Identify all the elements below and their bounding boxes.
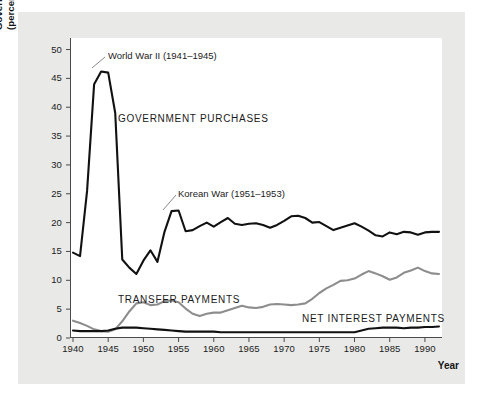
annotation-government-purchases: GOVERNMENT PURCHASES: [118, 113, 269, 124]
x-tick-label: 1965: [229, 343, 269, 354]
y-tick-label: 25: [40, 188, 62, 199]
x-tick-label: 1955: [159, 343, 199, 354]
y-tick-label: 15: [40, 245, 62, 256]
x-axis-title: Year: [438, 360, 459, 371]
annotation-net-interest-payments: NET INTEREST PAYMENTS: [302, 313, 445, 324]
y-tick-label: 20: [40, 217, 62, 228]
y-tick-label: 35: [40, 130, 62, 141]
y-tick-label: 40: [40, 101, 62, 112]
annotation-world-war-2: World War II (1941–1945): [108, 50, 217, 61]
y-tick-label: 30: [40, 159, 62, 170]
annotation-korean-war: Korean War (1951–1953): [178, 188, 285, 199]
x-tick-label: 1975: [299, 343, 339, 354]
y-tick-label: 10: [40, 274, 62, 285]
y-tick-label: 0: [40, 332, 62, 343]
x-tick-label: 1940: [53, 343, 93, 354]
series-line-government-purchases: [73, 71, 439, 274]
y-tick-label: 5: [40, 303, 62, 314]
x-tick-label: 1980: [335, 343, 375, 354]
x-tick-label: 1985: [370, 343, 410, 354]
ww2-leader-line: [92, 57, 105, 68]
y-tick-label: 45: [40, 72, 62, 83]
x-tick-label: 1950: [123, 343, 163, 354]
x-tick-label: 1970: [264, 343, 304, 354]
annotation-transfer-payments: TRANSFER PAYMENTS: [118, 294, 240, 305]
x-tick-label: 1945: [88, 343, 128, 354]
korean-war-leader-line: [163, 195, 176, 210]
series-line-net-interest-payments: [73, 326, 439, 332]
y-tick-label: 50: [40, 44, 62, 55]
chart-figure: Government outlays (percent of GDP) 0510…: [0, 0, 483, 397]
annotation-leader-lines: [92, 57, 176, 210]
x-tick-label: 1990: [405, 343, 445, 354]
x-tick-label: 1960: [194, 343, 234, 354]
